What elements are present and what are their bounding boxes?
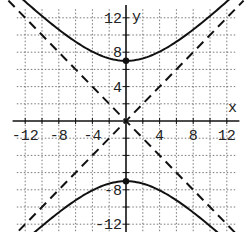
x-tick-label: 8 bbox=[189, 128, 198, 145]
x-axis-label: x bbox=[228, 100, 237, 117]
x-tick-label: 4 bbox=[155, 128, 164, 145]
x-tick-label: -8 bbox=[50, 128, 68, 145]
hyperbola-chart: -12-8-448121284-8-12 x y bbox=[0, 0, 250, 232]
axes bbox=[13, 5, 240, 232]
x-tick-label: -12 bbox=[12, 128, 39, 145]
y-axis-label: y bbox=[132, 9, 141, 26]
y-tick-label: 4 bbox=[113, 80, 122, 97]
y-tick-label: -12 bbox=[95, 217, 122, 232]
vertex-point bbox=[123, 178, 129, 184]
vertex-point bbox=[123, 58, 129, 64]
x-tick-label: -4 bbox=[83, 128, 101, 145]
y-tick-label: 12 bbox=[104, 11, 122, 28]
x-tick-label: 12 bbox=[218, 128, 236, 145]
